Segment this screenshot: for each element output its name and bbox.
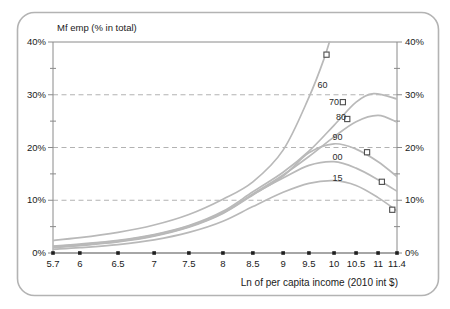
- x-tick-label: 9.5: [302, 258, 315, 269]
- curve-label-15: 15: [333, 173, 343, 183]
- x-tick-dot: [251, 251, 255, 255]
- x-tick-label: 9: [280, 258, 285, 269]
- y-tick-label-left: 40%: [27, 36, 47, 47]
- data-marker-60: [324, 52, 329, 57]
- curve-label-00: 00: [333, 152, 343, 162]
- x-tick-dot: [116, 251, 120, 255]
- x-tick-dot: [332, 251, 336, 255]
- data-marker-90: [364, 150, 369, 155]
- data-marker-15: [390, 207, 395, 212]
- y-tick-label-left: 20%: [27, 142, 47, 153]
- x-tick-label: 7.5: [182, 258, 195, 269]
- x-tick-dot: [376, 251, 380, 255]
- y-tick-label-right: 20%: [405, 142, 425, 153]
- curve-label-70: 70: [329, 97, 339, 107]
- x-tick-dot: [281, 251, 285, 255]
- x-tick-label: 11: [373, 258, 383, 269]
- x-tick-label: 11.4: [388, 258, 406, 269]
- x-tick-label: 10: [329, 258, 340, 269]
- x-tick-label: 6.5: [111, 258, 124, 269]
- x-tick-dot: [395, 251, 399, 255]
- y-tick-label-right: 40%: [405, 36, 425, 47]
- x-tick-label: 8.5: [246, 258, 259, 269]
- manufacturing-employment-line-chart: 0%0%10%10%20%20%30%30%40%40%5.766.577.58…: [0, 0, 450, 309]
- x-tick-dot: [152, 251, 156, 255]
- x-tick-dot: [354, 251, 358, 255]
- x-tick-dot: [78, 251, 82, 255]
- x-tick-dot: [307, 251, 311, 255]
- chart-title: Mf emp (% in total): [57, 22, 137, 33]
- x-tick-label: 6: [77, 258, 82, 269]
- curve-label-60: 60: [317, 80, 327, 90]
- y-tick-label-left: 0%: [32, 247, 46, 258]
- data-marker-70: [340, 100, 345, 105]
- x-tick-label: 8: [220, 258, 225, 269]
- y-tick-label-right: 0%: [405, 247, 419, 258]
- x-tick-dot: [51, 251, 55, 255]
- y-tick-label-left: 30%: [27, 89, 47, 100]
- curve-label-90: 90: [333, 132, 343, 142]
- x-tick-dot: [221, 251, 225, 255]
- y-tick-label-right: 30%: [405, 89, 425, 100]
- data-marker-00: [379, 179, 384, 184]
- y-tick-label-left: 10%: [27, 194, 47, 205]
- curve-label-80: 80: [336, 112, 346, 122]
- x-tick-dot: [187, 251, 191, 255]
- x-tick-label: 10.5: [347, 258, 366, 269]
- x-axis-title: Ln of per capita income (2010 int $): [241, 277, 398, 288]
- chart-window: 0%0%10%10%20%20%30%30%40%40%5.766.577.58…: [0, 0, 450, 309]
- x-tick-label: 7: [151, 258, 156, 269]
- x-tick-label: 5.7: [46, 258, 59, 269]
- y-tick-label-right: 10%: [405, 194, 425, 205]
